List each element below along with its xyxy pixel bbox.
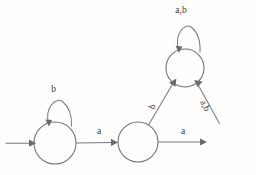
state-q0[interactable] [34,122,76,164]
transition-q0-q1[interactable] [76,139,118,146]
transition-label-q0-q1: a [97,126,102,136]
transition-label-q1-q3: a [181,126,186,136]
transition-q1-q3[interactable] [158,138,207,145]
transition-label-q0-self: b [51,84,56,94]
state-diagram-canvas: b a b a a,b [0,0,256,175]
transition-label-q2-self: a,b [175,5,187,15]
start-arrow [6,140,36,147]
transition-label-q3-q2: a,b [198,98,212,113]
state-q2[interactable] [166,49,204,87]
transition-q1-q2[interactable] [149,78,177,125]
transition-label-q1-q2: b [147,102,158,111]
state-diagram-svg: b a b a a,b [0,0,256,175]
state-q1[interactable] [118,122,158,162]
